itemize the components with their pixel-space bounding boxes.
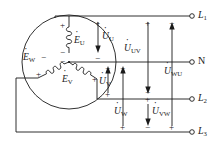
emf-v-subscript: V	[68, 78, 73, 85]
circuit-diagram: EU EV EW + − − + − + UU UV UW UUV UVW UW…	[0, 0, 214, 146]
voltage-vw-subscript: VW	[159, 110, 170, 117]
terminal-dot-n[interactable]	[190, 60, 195, 65]
voltage-v-plus-sign: +	[105, 90, 110, 99]
voltage-u-subscript: U	[109, 35, 114, 42]
terminal-dot-l2[interactable]	[190, 97, 195, 102]
voltage-uv-symbol: U	[124, 43, 131, 53]
emf-v-plus-sign: +	[92, 75, 97, 84]
voltage-w-minus-sign: −	[120, 64, 125, 73]
voltage-label-wu: UWU	[164, 67, 182, 77]
terminal-l2-subscript: 2	[204, 97, 207, 104]
voltage-wu-minus-sign: −	[169, 19, 174, 28]
terminal-l3-subscript: 3	[204, 130, 207, 137]
terminal-n-base: N	[198, 55, 205, 66]
terminal-dot-l1[interactable]	[190, 14, 195, 19]
voltage-label-v: UV	[99, 77, 111, 87]
voltage-label-w: UW	[114, 107, 127, 117]
voltage-w-symbol: U	[114, 106, 121, 116]
voltage-w-subscript: W	[121, 110, 127, 117]
emf-u-plus-sign: +	[60, 21, 65, 30]
emf-w-subscript: W	[29, 56, 35, 63]
voltage-label-uv: UUV	[124, 44, 141, 54]
voltage-vw-minus-sign: −	[145, 123, 150, 132]
voltage-vw-plus-sign: +	[145, 95, 150, 104]
emf-w-minus-sign: −	[41, 53, 46, 62]
terminal-l1-base: L	[198, 9, 204, 20]
voltage-w-plus-sign: +	[120, 123, 125, 132]
voltage-vw-symbol: U	[152, 106, 159, 116]
voltage-u-minus-sign: −	[95, 54, 100, 63]
voltage-v-minus-sign: −	[105, 64, 110, 73]
voltage-u-plus-sign: +	[95, 19, 100, 28]
voltage-v-subscript: V	[106, 80, 111, 87]
voltage-uv-plus-sign: +	[145, 19, 150, 28]
emf-u-symbol: E	[74, 35, 80, 45]
terminal-label-l1: L1	[198, 10, 207, 20]
voltage-v-symbol: U	[99, 76, 106, 86]
coil-u	[66, 22, 71, 53]
emf-w-plus-sign: +	[36, 70, 41, 79]
emf-v-symbol: E	[62, 74, 68, 84]
voltage-wu-symbol: U	[164, 66, 171, 76]
arrow-voltage-w	[120, 66, 125, 126]
arrow-voltage-uv	[145, 22, 150, 94]
voltage-uv-subscript: UV	[131, 47, 141, 54]
terminal-l1-subscript: 1	[204, 14, 207, 21]
terminal-dot-l3[interactable]	[190, 130, 195, 135]
emf-w-symbol: E	[23, 52, 29, 62]
bus-line-l3-left	[16, 78, 38, 132]
emf-label-u: EU	[74, 36, 85, 46]
terminal-label-l2: L2	[198, 93, 207, 103]
voltage-wu-plus-sign: +	[169, 123, 174, 132]
emf-label-v: EV	[62, 75, 73, 85]
terminal-l2-base: L	[198, 92, 204, 103]
voltage-label-vw: UVW	[152, 107, 170, 117]
coil-v	[69, 62, 94, 77]
terminal-label-n: N	[198, 56, 205, 66]
voltage-label-u: UU	[102, 32, 114, 42]
voltage-wu-subscript: WU	[171, 70, 182, 77]
emf-u-subscript: U	[80, 39, 85, 46]
terminal-l3-base: L	[198, 125, 204, 136]
terminal-label-l3: L3	[198, 126, 207, 136]
voltage-u-symbol: U	[102, 31, 109, 41]
emf-v-minus-sign: −	[60, 57, 65, 66]
emf-label-w: EW	[23, 53, 35, 63]
